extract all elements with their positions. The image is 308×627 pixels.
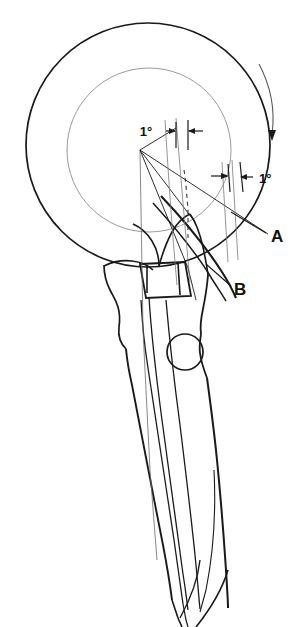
figure-root: 1° 1° A B — [0, 0, 308, 627]
angle-label-upper: 1° — [140, 124, 152, 139]
reference-label-a: A — [271, 227, 283, 246]
angle-label-lower: 1° — [259, 171, 271, 186]
prosthesis-diagram: 1° 1° A B — [0, 0, 308, 627]
reference-label-b: B — [234, 280, 246, 299]
diagram-background — [0, 0, 308, 627]
